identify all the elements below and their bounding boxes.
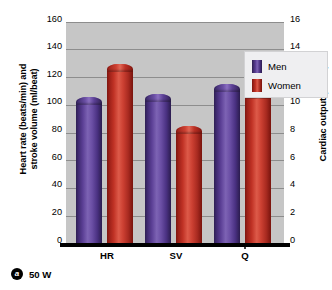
legend-item-men[interactable]: Men — [252, 58, 287, 74]
y-tick-right-2: 2 — [290, 207, 316, 217]
bar-q-women[interactable] — [245, 91, 271, 244]
bar-hr-men[interactable] — [76, 97, 102, 244]
x-label-q: Q — [225, 250, 265, 261]
caption-badge: a — [11, 268, 23, 280]
y-tick-left-20: 20 — [36, 207, 62, 217]
x-label-hr: HR — [87, 250, 127, 261]
bar-hr-women[interactable] — [107, 64, 133, 244]
bar-cap — [176, 126, 202, 134]
legend-label-men: Men — [268, 61, 287, 72]
y-tick-right-14: 14 — [290, 41, 316, 51]
bar-cap — [214, 84, 240, 92]
bar-sv-men[interactable] — [145, 94, 171, 244]
x-axis-category-labels: HR SV Q — [66, 250, 284, 264]
y-tick-left-40: 40 — [36, 179, 62, 189]
y-tick-left-100: 100 — [36, 96, 62, 106]
legend-item-women[interactable]: Women — [252, 77, 301, 93]
x-axis-baseline — [60, 243, 290, 247]
y-tick-left-120: 120 — [36, 69, 62, 79]
y-tick-right-6: 6 — [290, 152, 316, 162]
y-tick-left-140: 140 — [36, 41, 62, 51]
y-tick-right-4: 4 — [290, 179, 316, 189]
y-tick-left-80: 80 — [36, 124, 62, 134]
bar-sv-women[interactable] — [176, 126, 202, 244]
plot-area: Men Women — [66, 22, 284, 244]
bar-group-hr — [74, 22, 138, 244]
bar-q-men[interactable] — [214, 84, 240, 244]
y-tick-right-8: 8 — [290, 124, 316, 134]
x-label-q-text: Q — [241, 250, 248, 261]
y-tick-left-0: 0 — [36, 235, 62, 245]
bar-group-sv — [143, 22, 207, 244]
y-tick-left-60: 60 — [36, 152, 62, 162]
figure-panel: Heart rate (beats/min) and stroke volume… — [0, 0, 332, 290]
bar-cap — [107, 64, 133, 72]
caption-text: 50 W — [29, 269, 51, 280]
y-tick-right-0: 0 — [290, 235, 316, 245]
x-label-sv: SV — [156, 250, 196, 261]
bar-cap — [76, 97, 102, 105]
legend-label-women: Women — [268, 80, 301, 91]
y-tick-right-16: 16 — [290, 14, 316, 24]
y-axis-right-title: Cardiac output (L/min) — [318, 19, 329, 209]
chart-legend: Men Women — [244, 51, 328, 98]
men-swatch-icon — [252, 60, 262, 73]
bar-cap — [145, 94, 171, 102]
figure-caption: a 50 W — [11, 268, 51, 280]
y-axis-left-ticks: 160 140 120 100 80 60 40 20 0 — [36, 18, 62, 244]
y-tick-left-160: 160 — [36, 14, 62, 24]
women-swatch-icon — [252, 79, 262, 92]
